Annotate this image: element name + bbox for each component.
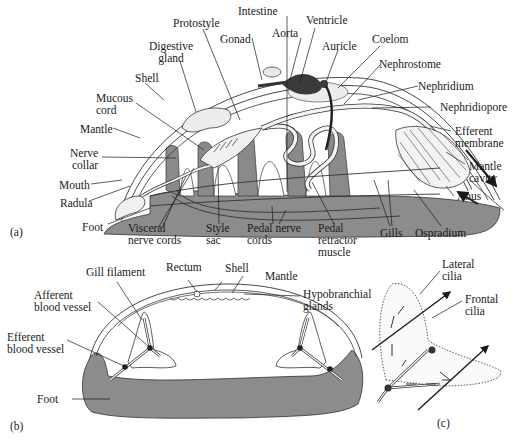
label-ventricle: Ventricle <box>306 14 348 26</box>
label-intestine: Intestine <box>238 5 278 17</box>
label-mantle-a: Mantle <box>80 123 113 135</box>
label-rectum: Rectum <box>166 261 202 273</box>
label-anus: Anus <box>457 190 481 202</box>
label-coelom: Coelom <box>372 33 408 45</box>
label-hypobranchial-glands: Hypobranchial glands <box>303 288 371 312</box>
panel-a-drawing <box>104 67 504 237</box>
label-protostyle: Protostyle <box>173 17 220 29</box>
label-nerve-collar: Nerve collar <box>70 147 98 171</box>
label-frontal-cilia: Frontal cilia <box>465 293 498 317</box>
label-visceral-nerve-cords: Visceral nerve cords <box>128 222 181 246</box>
label-mucous-cord: Mucous cord <box>96 92 133 116</box>
label-pedal-nerve-cords: Pedal nerve cords <box>247 222 301 246</box>
label-foot-b: Foot <box>37 393 58 405</box>
label-lateral-cilia: Lateral cilia <box>442 258 475 282</box>
label-shell-a: Shell <box>135 72 159 84</box>
label-efferent-blood-vessel: Efferent blood vessel <box>7 331 64 355</box>
label-gill-filament: Gill filament <box>86 266 145 278</box>
label-gills: Gills <box>380 227 402 239</box>
panel-c-tag: (c) <box>437 417 450 429</box>
label-shell-b: Shell <box>225 262 249 274</box>
label-radula: Radula <box>60 197 93 209</box>
label-foot-a: Foot <box>82 221 103 233</box>
label-ospradium: Ospradium <box>415 227 466 239</box>
label-nephridium: Nephridium <box>418 80 474 92</box>
label-nephridiopore: Nephridiopore <box>440 101 507 113</box>
label-nephrostome: Nephrostome <box>379 58 441 70</box>
panel-a-tag: (a) <box>10 226 23 238</box>
label-digestive-gland: Digestive gland <box>149 40 193 64</box>
label-auricle: Auricle <box>322 40 356 52</box>
label-mantle-cavity: Mantle cavity <box>469 160 502 184</box>
label-style-sac: Style sac <box>206 222 230 246</box>
label-mouth: Mouth <box>59 179 90 191</box>
label-mantle-b: Mantle <box>265 270 298 282</box>
label-pedal-retractor-muscle: Pedal retractor muscle <box>318 222 357 258</box>
label-efferent-membrane: Efferent membrane <box>455 125 504 149</box>
chiton-anatomy-figure: Protostyle Intestine Ventricle Gonad Aor… <box>0 0 518 440</box>
panel-b-tag: (b) <box>10 420 23 432</box>
label-afferent-blood-vessel: Afferent blood vessel <box>34 289 91 313</box>
label-gonad: Gonad <box>220 33 251 45</box>
label-aorta: Aorta <box>272 27 298 39</box>
